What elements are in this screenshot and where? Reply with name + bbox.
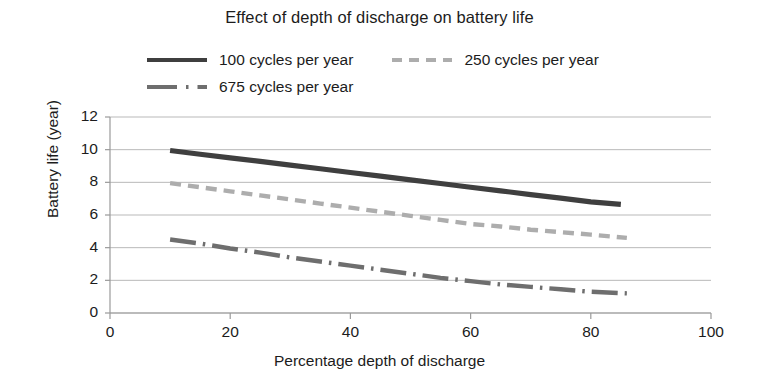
y-tick-label: 0 — [64, 303, 98, 321]
y-tick-label: 4 — [64, 238, 98, 256]
x-tick-label: 100 — [691, 323, 731, 341]
x-tick-label: 80 — [571, 323, 611, 341]
y-tick-label: 8 — [64, 172, 98, 190]
y-tick-label: 6 — [64, 205, 98, 223]
x-tick-label: 0 — [90, 323, 130, 341]
chart-container: Effect of depth of discharge on battery … — [0, 0, 759, 382]
plot-area: Battery life (year) Percentage depth of … — [0, 0, 759, 382]
y-tick-label: 10 — [64, 140, 98, 158]
x-tick-label: 40 — [330, 323, 370, 341]
y-tick-label: 2 — [64, 270, 98, 288]
series-line-2 — [170, 183, 627, 238]
x-tick-label: 20 — [210, 323, 250, 341]
series-line-1 — [170, 150, 621, 204]
y-tick-label: 12 — [64, 107, 98, 125]
x-tick-label: 60 — [451, 323, 491, 341]
